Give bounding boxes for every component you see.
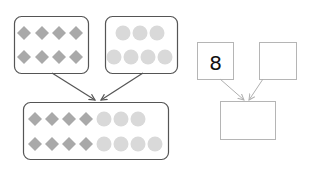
number-bond: 8 <box>198 43 297 140</box>
circle-group-box <box>106 17 178 74</box>
circle-icon <box>114 112 129 127</box>
whole-box[interactable] <box>221 102 276 140</box>
arrow-icon <box>249 79 263 100</box>
circle-icon <box>97 137 112 152</box>
circle-icon <box>141 50 156 65</box>
circle-icon <box>107 50 122 65</box>
arrow-icon <box>101 73 143 100</box>
circle-icon <box>124 50 139 65</box>
diagram-canvas: 8 <box>0 0 315 172</box>
circle-icon <box>116 26 131 41</box>
circle-icon <box>114 137 129 152</box>
circle-icon <box>148 137 163 152</box>
circle-icon <box>131 137 146 152</box>
circle-icon <box>97 112 112 127</box>
circle-icon <box>150 26 165 41</box>
circle-icon <box>158 50 173 65</box>
combined-group-box <box>24 103 169 160</box>
part-box-2[interactable] <box>260 43 297 80</box>
circle-icon <box>131 112 146 127</box>
arrow-icon <box>220 79 244 100</box>
circle-icon <box>133 26 148 41</box>
part-value-1: 8 <box>209 51 222 75</box>
arrow-icon <box>52 73 95 100</box>
diamond-group-box <box>15 17 89 74</box>
